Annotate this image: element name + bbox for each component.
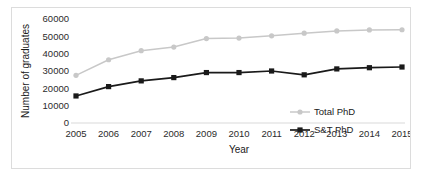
y-axis-tick-label: 10000	[43, 100, 69, 111]
data-point-marker	[236, 70, 241, 75]
data-point-marker	[139, 78, 144, 83]
y-axis-title: Number of graduates	[20, 24, 31, 118]
data-point-marker	[302, 72, 307, 77]
x-axis-tick-label: 2015	[391, 128, 410, 139]
data-point-marker	[171, 75, 176, 80]
data-point-marker	[367, 65, 372, 70]
y-axis-tick-label: 40000	[43, 48, 69, 59]
x-axis-title: Year	[229, 144, 250, 155]
legend-marker-total-phd	[297, 109, 302, 114]
data-point-marker	[106, 84, 111, 89]
data-point-marker	[73, 73, 78, 78]
x-axis-tick-label: 2008	[163, 128, 184, 139]
x-axis-tick-label: 2010	[228, 128, 249, 139]
data-point-marker	[204, 70, 209, 75]
data-point-marker	[73, 93, 78, 98]
data-point-marker	[171, 44, 176, 49]
data-point-marker	[334, 28, 339, 33]
x-axis-tick-label: 2014	[359, 128, 380, 139]
data-point-marker	[236, 35, 241, 40]
data-point-marker	[139, 48, 144, 53]
x-axis-tick-label: 2011	[261, 128, 281, 139]
data-point-marker	[204, 36, 209, 41]
y-axis-tick-label: 60000	[43, 13, 69, 24]
data-point-marker	[367, 27, 372, 32]
data-point-marker	[302, 31, 307, 36]
legend-marker-st-phd	[297, 127, 302, 132]
legend-item-total-phd[interactable]: Total PhD	[290, 106, 355, 117]
line-chart: 0100002000030000400005000060000200520062…	[12, 8, 410, 168]
chart-container: 0100002000030000400005000060000200520062…	[11, 7, 411, 169]
data-point-marker	[269, 68, 274, 73]
data-point-marker	[334, 66, 339, 71]
data-point-marker	[269, 33, 274, 38]
x-axis-tick-label: 2006	[98, 128, 119, 139]
x-axis-tick-label: 2007	[131, 128, 152, 139]
data-point-marker	[106, 57, 111, 62]
x-axis-tick-label: 2005	[65, 128, 86, 139]
y-axis-tick-label: 0	[64, 117, 69, 128]
series-st-phd	[73, 64, 404, 98]
y-axis-tick-label: 30000	[43, 65, 69, 76]
data-point-marker	[399, 27, 404, 32]
data-point-marker	[399, 64, 404, 69]
legend-label-st-phd: S&T PhD	[314, 124, 354, 135]
y-axis-tick-label: 50000	[43, 31, 69, 42]
chart-legend: Total PhDS&T PhD	[290, 106, 355, 135]
legend-label-total-phd: Total PhD	[314, 106, 355, 117]
y-axis-tick-label: 20000	[43, 83, 69, 94]
x-axis-tick-label: 2009	[196, 128, 217, 139]
